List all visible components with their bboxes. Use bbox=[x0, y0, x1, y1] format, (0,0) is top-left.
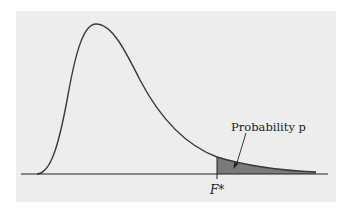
critical-value-label: F* bbox=[209, 183, 224, 197]
density-curve bbox=[37, 24, 316, 174]
f-distribution-chart: Probability p F* bbox=[0, 0, 351, 209]
annotation-arrow bbox=[236, 133, 246, 166]
annotation-label: Probability p bbox=[231, 120, 306, 134]
